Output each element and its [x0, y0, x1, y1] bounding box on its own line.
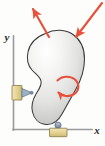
pin-support-pin — [30, 91, 33, 94]
y-axis-label: y — [3, 31, 10, 43]
roller-wheel — [55, 122, 61, 128]
pin-support-block — [12, 86, 22, 101]
rigid-body — [27, 30, 84, 124]
rigid-body-outline — [27, 30, 84, 124]
force-arrow-upper-left — [33, 9, 49, 37]
figure-canvas: y x — [0, 0, 105, 146]
mechanics-figure: y x — [0, 0, 105, 146]
roller-support-bottom — [50, 122, 68, 137]
roller-support-block — [50, 128, 68, 137]
x-axis-label: x — [93, 124, 100, 136]
pin-support-left — [12, 86, 33, 101]
force-arrow-upper-right — [76, 3, 102, 37]
